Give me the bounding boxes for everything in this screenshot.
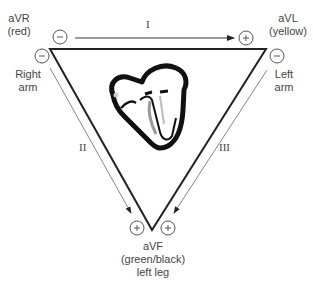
right-arm-word2: arm bbox=[8, 81, 48, 94]
left-arm-label: Left arm bbox=[264, 68, 304, 94]
positive-terminal-lead-iii bbox=[161, 221, 175, 235]
negative-terminal-lead-iii bbox=[270, 49, 284, 63]
avr-label: aVR (red) bbox=[4, 12, 34, 38]
lead-iii-label: III bbox=[219, 141, 230, 153]
lead-i-label: I bbox=[146, 18, 150, 30]
avf-name: aVF bbox=[113, 240, 193, 253]
avf-color: (green/black) bbox=[113, 253, 193, 266]
left-arm-word1: Left bbox=[264, 68, 304, 81]
avl-label: aVL (yellow) bbox=[264, 12, 312, 38]
negative-terminal-lead-ii bbox=[35, 49, 49, 63]
heart-icon bbox=[112, 66, 186, 148]
left-arm-word2: arm bbox=[264, 81, 304, 94]
avf-label: aVF (green/black) left leg bbox=[113, 240, 193, 279]
negative-terminal-lead-i bbox=[53, 30, 67, 44]
avl-color: (yellow) bbox=[264, 25, 312, 38]
right-arm-label: Right arm bbox=[8, 68, 48, 94]
positive-terminal-lead-i bbox=[239, 31, 253, 45]
positive-terminal-lead-ii bbox=[130, 221, 144, 235]
avr-name: aVR bbox=[4, 12, 34, 25]
avl-name: aVL bbox=[264, 12, 312, 25]
avr-color: (red) bbox=[4, 25, 34, 38]
right-arm-word1: Right bbox=[8, 68, 48, 81]
lead-ii-label: II bbox=[79, 141, 86, 153]
avf-limb: left leg bbox=[113, 266, 193, 279]
